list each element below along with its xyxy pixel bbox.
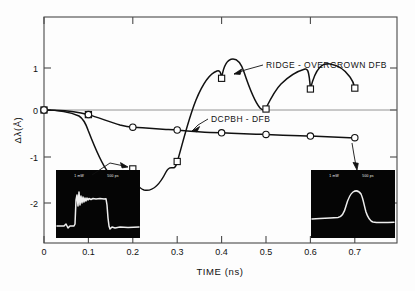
- arrowhead-icon: [121, 163, 129, 168]
- chart-canvas: 0 0.1 0.2 0.3 0.4 0.5 0.6 0.7 1 0 -1 -2 …: [0, 0, 415, 291]
- data-point-marker: [352, 135, 358, 141]
- arrowhead-icon: [234, 69, 242, 74]
- figure-container: 0 0.1 0.2 0.3 0.4 0.5 0.6 0.7 1 0 -1 -2 …: [0, 0, 415, 291]
- inset-label-time-right: 500 ps: [362, 174, 373, 178]
- x-tick-label-3: 0.3: [171, 247, 184, 257]
- y-tick-label-2: -1: [30, 153, 38, 163]
- annotation-dcpbh-dfb: DCPBH - DFB: [192, 114, 270, 132]
- x-tick-label-1: 0.1: [82, 247, 95, 257]
- x-tick-label-6: 0.6: [304, 247, 317, 257]
- data-point-marker: [218, 130, 224, 136]
- y-tick-label-1: 0: [33, 106, 38, 116]
- data-point-marker: [307, 133, 313, 139]
- y-tick-label-0: 1: [33, 64, 38, 74]
- y-axis-title: Δλ(Å): [12, 117, 23, 144]
- data-point-marker: [41, 107, 47, 113]
- x-tick-label-5: 0.5: [260, 247, 273, 257]
- data-point-marker: [263, 106, 269, 112]
- data-point-marker: [352, 85, 358, 91]
- x-tick-label-2: 0.2: [127, 247, 140, 257]
- inset-background: [311, 170, 395, 238]
- x-tick-label-4: 0.4: [215, 247, 228, 257]
- arrowhead-icon: [353, 162, 358, 170]
- inset-label-power-left: 1 mW: [74, 174, 84, 178]
- y-tick-label-3: -2: [30, 199, 38, 209]
- x-axis-title: TIME (ns): [196, 266, 243, 277]
- data-point-marker: [219, 75, 225, 81]
- annotation-label-ridge: RIDGE - OVERGROWN DFB: [266, 60, 387, 70]
- x-tick-label-7: 0.7: [349, 247, 362, 257]
- inset-label-time-left: 500 ps: [107, 174, 118, 178]
- data-point-marker: [130, 124, 136, 130]
- data-point-marker: [85, 111, 91, 117]
- inset-label-power-right: 1 mW: [329, 174, 339, 178]
- data-point-marker: [174, 158, 180, 164]
- annotation-ridge-overgrown-dfb: RIDGE - OVERGROWN DFB: [234, 60, 387, 74]
- data-point-marker: [307, 86, 313, 92]
- right-oscilloscope-inset[interactable]: 1 mW 500 ps: [311, 170, 395, 238]
- annotation-label-dcpbh: DCPBH - DFB: [211, 114, 270, 124]
- x-tick-label-0: 0: [41, 247, 46, 257]
- data-point-marker: [174, 127, 180, 133]
- data-point-marker: [263, 131, 269, 137]
- left-oscilloscope-inset[interactable]: 1 mW 500 ps: [56, 170, 140, 238]
- leader-right-inset: [352, 143, 358, 170]
